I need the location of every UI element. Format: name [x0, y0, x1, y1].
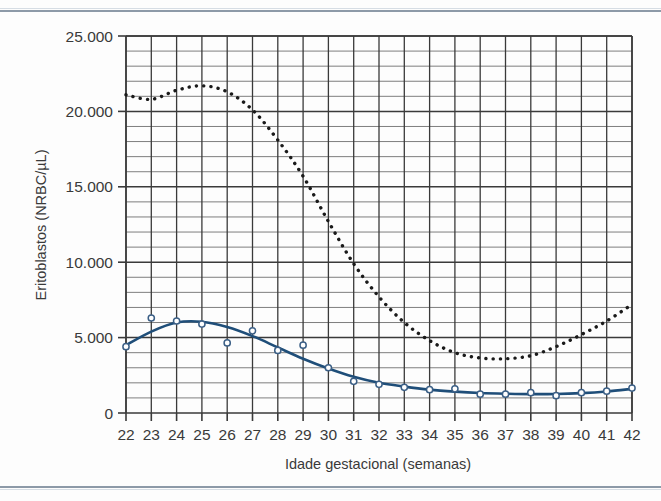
figure-container: 05.00010.00015.00020.00025.000 222324252… — [0, 0, 661, 501]
scatter-marker — [376, 381, 382, 387]
scatter-marker — [174, 318, 180, 324]
scatter-marker — [629, 385, 635, 391]
scatter-marker — [300, 342, 306, 348]
y-tick-label: 25.000 — [66, 28, 114, 45]
eritoblastos-chart: 05.00010.00015.00020.00025.000 222324252… — [0, 14, 661, 484]
chart-area: 05.00010.00015.00020.00025.000 222324252… — [0, 14, 661, 484]
bottom-hairline — [0, 489, 661, 490]
top-hairline — [0, 8, 661, 9]
y-tick-label: 5.000 — [74, 329, 113, 346]
x-tick-label: 27 — [244, 426, 261, 443]
y-tick-label: 10.000 — [66, 254, 114, 271]
x-tick-label: 32 — [370, 426, 387, 443]
x-axis-title: Idade gestacional (semanas) — [285, 456, 471, 472]
x-tick-label: 31 — [345, 426, 362, 443]
x-tick-label: 36 — [472, 426, 489, 443]
x-tick-label: 33 — [396, 426, 413, 443]
x-tick-label: 40 — [573, 426, 591, 443]
scatter-marker — [351, 378, 357, 384]
scatter-marker — [452, 386, 458, 392]
scatter-marker — [477, 391, 483, 397]
x-tick-label: 37 — [497, 426, 514, 443]
scatter-marker — [502, 391, 508, 397]
scatter-marker — [199, 321, 205, 327]
y-tick-label: 0 — [104, 405, 113, 422]
x-tick-label: 30 — [320, 426, 338, 443]
y-axis-title: Eritoblastos (NRBC/µL) — [33, 150, 49, 301]
x-tick-label: 22 — [117, 426, 134, 443]
y-tick-label: 20.000 — [66, 103, 114, 120]
scatter-marker — [123, 344, 129, 350]
x-axis-ticks — [126, 413, 632, 421]
x-tick-label: 38 — [522, 426, 539, 443]
scatter-marker — [275, 347, 281, 353]
top-rule — [0, 10, 661, 12]
scatter-marker — [604, 388, 610, 394]
x-tick-label: 25 — [193, 426, 210, 443]
x-tick-label: 34 — [421, 426, 439, 443]
scatter-marker — [578, 390, 584, 396]
scatter-marker — [325, 365, 331, 371]
x-tick-label: 41 — [598, 426, 615, 443]
scatter-marker — [401, 384, 407, 390]
x-tick-label: 28 — [269, 426, 286, 443]
y-tick-label: 15.000 — [66, 178, 114, 195]
x-tick-label: 26 — [219, 426, 236, 443]
scatter-marker — [553, 393, 559, 399]
vertical-gridlines — [126, 36, 632, 413]
x-tick-label: 39 — [547, 426, 564, 443]
scatter-marker — [148, 315, 154, 321]
x-tick-label: 35 — [446, 426, 463, 443]
y-axis-tick-labels: 05.00010.00015.00020.00025.000 — [66, 28, 114, 422]
x-tick-label: 29 — [294, 426, 311, 443]
scatter-marker — [249, 328, 255, 334]
scatter-marker — [528, 390, 534, 396]
y-axis-ticks — [118, 36, 126, 413]
scatter-marker — [427, 387, 433, 393]
x-tick-label: 23 — [143, 426, 160, 443]
scatter-marker — [224, 340, 230, 346]
x-tick-label: 24 — [168, 426, 186, 443]
x-tick-label: 42 — [623, 426, 640, 443]
x-axis-tick-labels: 2223242526272829303132333435363738394041… — [117, 426, 640, 443]
bottom-rule — [0, 486, 661, 488]
